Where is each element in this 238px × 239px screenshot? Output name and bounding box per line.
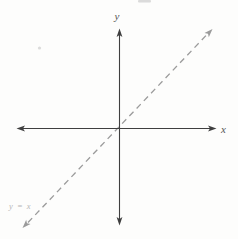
coordinate-plane-figure: y x y = x [0,0,238,239]
identity-line-label: y = x [8,201,32,211]
scan-dot [38,46,41,49]
graph-canvas: y x y = x [0,0,238,239]
y-axis-label: y [114,10,120,22]
x-axis [17,126,217,132]
identity-line-arrowhead-upper-icon [204,27,214,37]
y-axis [117,29,123,226]
x-axis-label: x [220,123,226,135]
scan-smudge-top [138,0,151,2]
